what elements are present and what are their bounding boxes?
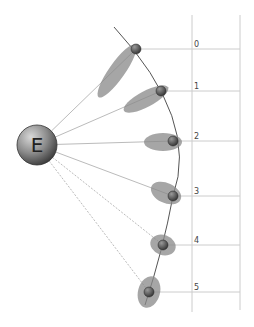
moon-ellipse xyxy=(147,177,184,209)
moon-icon xyxy=(168,136,178,146)
moons xyxy=(131,44,178,297)
earth: E xyxy=(17,125,57,165)
orbit-diagram: 012345 E xyxy=(0,0,254,327)
level-label: 4 xyxy=(194,236,199,245)
level-lines xyxy=(136,49,240,292)
moon-icon xyxy=(158,240,168,250)
moon-icon xyxy=(131,44,141,54)
moon-icon xyxy=(168,191,178,201)
level-label: 5 xyxy=(194,283,199,292)
moon-icon xyxy=(156,86,166,96)
level-labels: 012345 xyxy=(194,40,199,292)
moon-ellipses xyxy=(92,40,185,310)
grid xyxy=(192,15,240,312)
moon-ellipse xyxy=(120,80,172,118)
level-label: 3 xyxy=(194,187,199,196)
moon-icon xyxy=(144,287,154,297)
level-label: 1 xyxy=(194,82,199,91)
level-label: 2 xyxy=(194,132,199,141)
earth-label: E xyxy=(31,133,44,157)
ray-line xyxy=(49,161,149,292)
ray-line xyxy=(53,157,163,245)
level-label: 0 xyxy=(194,40,199,49)
